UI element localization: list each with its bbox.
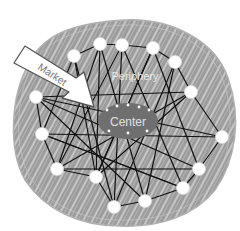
- center-dot: [127, 104, 130, 107]
- network-node: [51, 163, 64, 176]
- network-node: [94, 38, 107, 51]
- network-node: [30, 91, 43, 104]
- periphery-label: Periphery: [111, 70, 159, 82]
- core-periphery-diagram: Center Periphery Market: [0, 0, 240, 231]
- center-dot: [146, 130, 149, 133]
- center-dot: [108, 130, 111, 133]
- network-node: [90, 171, 103, 184]
- network-node: [139, 195, 152, 208]
- network-node: [116, 39, 129, 52]
- center-dot: [148, 109, 151, 112]
- network-node: [68, 50, 81, 63]
- network-node: [177, 182, 190, 195]
- network-node: [36, 128, 49, 141]
- center-label: Center: [110, 115, 146, 129]
- network-node: [147, 42, 160, 55]
- center-dot: [127, 132, 130, 135]
- network-node: [185, 86, 198, 99]
- center-dot: [106, 109, 109, 112]
- center-dot: [116, 105, 119, 108]
- network-node: [169, 56, 182, 69]
- network-node: [193, 163, 206, 176]
- network-node: [216, 131, 229, 144]
- network-node: [108, 201, 121, 214]
- center-dot: [138, 106, 141, 109]
